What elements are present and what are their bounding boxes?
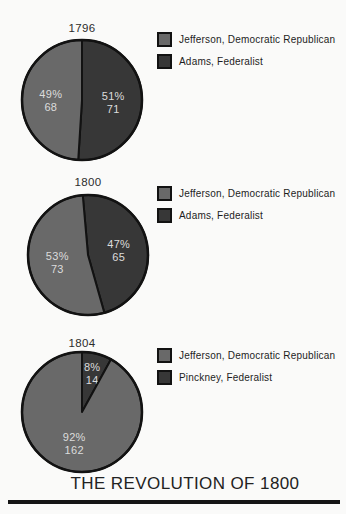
figure-title: THE REVOLUTION OF 1800 xyxy=(0,474,346,494)
jefferson-swatch-icon xyxy=(157,348,172,363)
year-label-1796: 1796 xyxy=(42,22,122,34)
pie-chart-1804: 8%1492%162 xyxy=(17,347,147,477)
legend-label-jefferson: Jefferson, Democratic Republican xyxy=(179,350,335,361)
legend-label-pinckney: Pinckney, Federalist xyxy=(179,372,272,383)
year-label-1800: 1800 xyxy=(48,176,128,188)
legend-item-adams: Adams, Federalist xyxy=(157,208,335,223)
legend-label-adams: Adams, Federalist xyxy=(179,56,263,67)
legend-label-jefferson: Jefferson, Democratic Republican xyxy=(179,34,335,45)
pinckney-swatch-icon xyxy=(157,370,172,385)
legend-item-jefferson: Jefferson, Democratic Republican xyxy=(157,32,335,47)
pie-chart-1796: 51%7149%68 xyxy=(17,35,147,165)
legend-item-pinckney: Pinckney, Federalist xyxy=(157,370,335,385)
legend-item-jefferson: Jefferson, Democratic Republican xyxy=(157,348,335,363)
slice-label: 92%162 xyxy=(63,431,86,456)
legend-label-adams: Adams, Federalist xyxy=(179,210,263,221)
jefferson-swatch-icon xyxy=(157,32,172,47)
legend-item-adams: Adams, Federalist xyxy=(157,54,335,69)
legend-label-jefferson: Jefferson, Democratic Republican xyxy=(179,188,335,199)
pie-chart-1800: 47%6553%73 xyxy=(23,190,153,320)
jefferson-swatch-icon xyxy=(157,186,172,201)
adams-swatch-icon xyxy=(157,54,172,69)
legend-item-jefferson: Jefferson, Democratic Republican xyxy=(157,186,335,201)
adams-swatch-icon xyxy=(157,208,172,223)
bottom-rule xyxy=(8,500,340,504)
legend-1796: Jefferson, Democratic Republican Adams, … xyxy=(157,32,335,76)
legend-1800: Jefferson, Democratic Republican Adams, … xyxy=(157,186,335,230)
legend-1804: Jefferson, Democratic Republican Pinckne… xyxy=(157,348,335,392)
figure: 1796 51%7149%68 Jefferson, Democratic Re… xyxy=(0,0,346,514)
